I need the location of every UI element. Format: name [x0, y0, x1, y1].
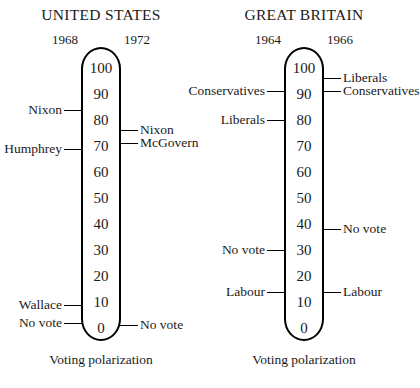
panel-great-britain: GREAT BRITAIN 1964 1966 1009080706050403…	[203, 0, 405, 388]
marker-label-left: Wallace	[19, 298, 62, 312]
marker-label-left: Liberals	[221, 113, 265, 127]
marker-label-left: Conservatives	[189, 85, 266, 99]
scale-tick-label: 50	[81, 191, 121, 206]
scale-tick-label: 90	[284, 87, 324, 102]
marker-label-left: No vote	[19, 316, 62, 330]
scale-tick-label: 50	[284, 191, 324, 206]
scale-tick-label: 10	[284, 295, 324, 310]
scale-tick-label: 60	[81, 165, 121, 180]
panel-caption: Voting polarization	[203, 352, 405, 368]
scale-tick-label: 70	[81, 139, 121, 154]
scale-tick-label: 20	[81, 269, 121, 284]
marker-tick-left	[64, 149, 83, 150]
scale-tick-label: 0	[284, 321, 324, 336]
marker-tick-right	[322, 292, 341, 293]
year-label-right: 1972	[124, 32, 150, 48]
marker-tick-left	[267, 292, 286, 293]
marker-label-right: No vote	[343, 222, 386, 236]
scale-tick-label: 80	[284, 113, 324, 128]
panel-title: UNITED STATES	[0, 6, 202, 24]
marker-tick-left	[267, 120, 286, 121]
scale-tick-label: 70	[284, 139, 324, 154]
panel-title: GREAT BRITAIN	[203, 6, 405, 24]
scale-tick-label: 80	[81, 113, 121, 128]
scale-tick-label: 20	[284, 269, 324, 284]
year-label-left: 1968	[52, 32, 78, 48]
scale-tick-label: 30	[284, 243, 324, 258]
marker-tick-right	[322, 229, 341, 230]
scale-tick-label: 10	[81, 295, 121, 310]
marker-label-left: Humphrey	[4, 142, 62, 156]
panel-united-states: UNITED STATES 1968 1972 1009080706050403…	[0, 0, 202, 388]
year-label-left: 1964	[255, 32, 281, 48]
marker-tick-left	[64, 323, 83, 324]
marker-tick-left	[64, 305, 83, 306]
marker-tick-right	[119, 130, 138, 131]
marker-tick-right	[119, 143, 138, 144]
marker-tick-left	[267, 91, 286, 92]
marker-label-right: Conservatives	[343, 85, 420, 99]
scale-tick-label: 40	[81, 217, 121, 232]
scale-tick-label: 40	[284, 217, 324, 232]
marker-tick-right	[322, 78, 341, 79]
scale-tick-label: 0	[81, 321, 121, 336]
marker-tick-left	[64, 110, 83, 111]
marker-label-left: No vote	[222, 243, 265, 257]
scale-tick-label: 100	[81, 61, 121, 76]
year-label-right: 1966	[327, 32, 353, 48]
marker-label-left: Labour	[226, 285, 265, 299]
scale-tick-label: 100	[284, 61, 324, 76]
scale-tick-label: 90	[81, 87, 121, 102]
scale-tick-label: 60	[284, 165, 324, 180]
scale-tick-label: 30	[81, 243, 121, 258]
marker-label-left: Nixon	[28, 103, 62, 117]
panel-caption: Voting polarization	[0, 352, 202, 368]
marker-label-right: No vote	[140, 319, 183, 333]
marker-tick-left	[267, 250, 286, 251]
marker-label-right: Labour	[343, 285, 382, 299]
marker-label-right: McGovern	[140, 137, 198, 151]
marker-tick-right	[119, 325, 138, 326]
marker-tick-right	[322, 91, 341, 92]
